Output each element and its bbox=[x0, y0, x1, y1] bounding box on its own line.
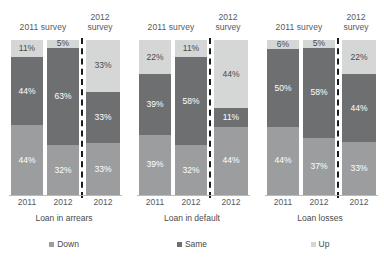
x-axis-line bbox=[265, 195, 378, 196]
legend-item-up: Up bbox=[256, 239, 384, 249]
segment-same: 44% bbox=[11, 57, 43, 125]
survey-headers: 2011 survey 2012 survey bbox=[256, 6, 384, 40]
survey-headers: 2011 survey 2012 survey bbox=[128, 6, 256, 40]
chart-panel-loan-losses: 2011 survey 2012 survey 6% 50% 44% 5% 58… bbox=[256, 0, 384, 232]
segment-label: 58% bbox=[182, 97, 199, 106]
segment-label: 11% bbox=[223, 113, 239, 122]
segment-same: 58% bbox=[175, 57, 207, 145]
plot-area: 22% 39% 39% 11% 58% 32% 44% 11% 44% bbox=[128, 40, 256, 195]
segment-label: 44% bbox=[18, 156, 35, 165]
segment-label: 37% bbox=[310, 162, 327, 171]
chart-legend: Down Same Up bbox=[0, 234, 384, 254]
segment-up: 11% bbox=[175, 40, 207, 57]
survey-divider-line bbox=[337, 38, 339, 198]
segment-label: 22% bbox=[350, 53, 367, 62]
segment-label: 11% bbox=[19, 44, 35, 53]
segment-label: 50% bbox=[274, 84, 291, 93]
segment-up: 5% bbox=[303, 40, 335, 48]
segment-same: 39% bbox=[139, 74, 171, 134]
segment-label: 33% bbox=[94, 113, 111, 122]
segment-label: 39% bbox=[146, 160, 163, 169]
segment-label: 33% bbox=[94, 61, 111, 70]
segment-up: 11% bbox=[11, 40, 43, 57]
survey-header-2012-line1: 2012 bbox=[91, 12, 110, 22]
segment-up: 44% bbox=[214, 40, 248, 108]
x-tick-label: 2012 bbox=[214, 197, 248, 207]
segment-same: 44% bbox=[342, 74, 376, 142]
legend-item-down: Down bbox=[0, 239, 128, 249]
panel-title: Loan in default bbox=[128, 213, 256, 223]
segment-down: 39% bbox=[139, 135, 171, 195]
survey-header-2012: 2012 survey bbox=[206, 12, 250, 32]
survey-header-2012-line1: 2012 bbox=[219, 12, 238, 22]
stacked-bar: 22% 39% 39% bbox=[139, 40, 171, 195]
segment-same: 50% bbox=[267, 49, 299, 127]
survey-divider-line bbox=[81, 38, 83, 198]
x-tick-label: 2012 bbox=[86, 197, 120, 207]
segment-label: 44% bbox=[18, 87, 35, 96]
stacked-bar: 6% 50% 44% bbox=[267, 40, 299, 195]
segment-down: 32% bbox=[47, 145, 79, 195]
x-tick-label: 2011 bbox=[139, 197, 171, 207]
x-axis-line bbox=[9, 195, 122, 196]
segment-same: 58% bbox=[303, 48, 335, 138]
legend-label: Same bbox=[185, 239, 207, 249]
survey-header-2012-line2: survey bbox=[343, 22, 368, 32]
x-tick-label: 2012 bbox=[342, 197, 376, 207]
legend-label: Up bbox=[319, 239, 330, 249]
stacked-bar: 11% 58% 32% bbox=[175, 40, 207, 195]
segment-label: 11% bbox=[183, 44, 199, 53]
x-axis-ticks: 2011 2012 2012 bbox=[0, 197, 128, 211]
segment-down: 44% bbox=[267, 127, 299, 195]
survey-header-2012: 2012 survey bbox=[334, 12, 378, 32]
x-axis-line bbox=[137, 195, 250, 196]
segment-down: 44% bbox=[214, 127, 248, 195]
chart-panel-loan-in-arrears: 2011 survey 2012 survey 11% 44% 44% 5% 6… bbox=[0, 0, 128, 232]
segment-label: 44% bbox=[222, 70, 239, 79]
stacked-bar: 44% 11% 44% bbox=[214, 40, 248, 195]
chart-panel-loan-in-default: 2011 survey 2012 survey 22% 39% 39% 11% … bbox=[128, 0, 256, 232]
segment-label: 44% bbox=[274, 156, 291, 165]
survey-header-2012-line2: survey bbox=[87, 22, 112, 32]
legend-label: Down bbox=[57, 239, 79, 249]
legend-swatch-icon bbox=[311, 242, 316, 247]
survey-header-2011: 2011 survey bbox=[10, 22, 76, 32]
stacked-bar: 5% 58% 37% bbox=[303, 40, 335, 195]
x-axis-ticks: 2011 2012 2012 bbox=[256, 197, 384, 211]
x-axis-ticks: 2011 2012 2012 bbox=[128, 197, 256, 211]
segment-down: 44% bbox=[11, 125, 43, 195]
x-tick-label: 2012 bbox=[303, 197, 335, 207]
panel-title: Loan in arrears bbox=[0, 213, 128, 223]
survey-header-2011: 2011 survey bbox=[138, 22, 204, 32]
segment-up: 6% bbox=[267, 40, 299, 49]
segment-same: 63% bbox=[47, 48, 79, 146]
x-tick-label: 2011 bbox=[267, 197, 299, 207]
survey-header-2012-line1: 2012 bbox=[347, 12, 366, 22]
survey-divider-line bbox=[209, 38, 211, 198]
segment-label: 58% bbox=[310, 88, 327, 97]
segment-same: 33% bbox=[86, 92, 120, 144]
segment-label: 33% bbox=[94, 165, 111, 174]
stacked-bar: 5% 63% 32% bbox=[47, 40, 79, 195]
segment-label: 22% bbox=[146, 53, 163, 62]
segment-up: 22% bbox=[139, 40, 171, 74]
survey-headers: 2011 survey 2012 survey bbox=[0, 6, 128, 40]
segment-down: 32% bbox=[175, 145, 207, 195]
plot-area: 6% 50% 44% 5% 58% 37% 22% 44% 33% bbox=[256, 40, 384, 195]
legend-swatch-icon bbox=[177, 242, 182, 247]
segment-up: 22% bbox=[342, 40, 376, 74]
segment-label: 6% bbox=[277, 40, 289, 49]
stacked-bar: 11% 44% 44% bbox=[11, 40, 43, 195]
legend-item-same: Same bbox=[128, 239, 256, 249]
segment-up: 5% bbox=[47, 40, 79, 48]
stacked-bar-chart: 2011 survey 2012 survey 11% 44% 44% 5% 6… bbox=[0, 0, 384, 268]
segment-label: 32% bbox=[182, 166, 199, 175]
segment-label: 33% bbox=[350, 164, 367, 173]
survey-header-2012-line2: survey bbox=[215, 22, 240, 32]
x-tick-label: 2012 bbox=[175, 197, 207, 207]
legend-swatch-icon bbox=[49, 242, 54, 247]
chart-panels: 2011 survey 2012 survey 11% 44% 44% 5% 6… bbox=[0, 0, 384, 232]
segment-label: 63% bbox=[54, 92, 71, 101]
segment-down: 33% bbox=[342, 142, 376, 195]
stacked-bar: 33% 33% 33% bbox=[86, 40, 120, 195]
